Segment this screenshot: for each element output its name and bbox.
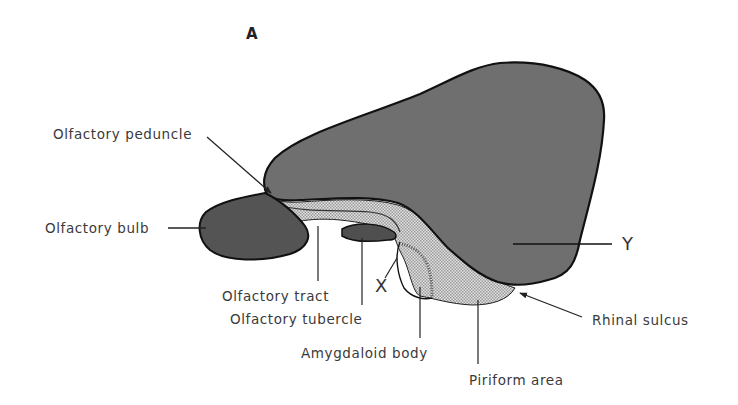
rhinal-sulcus-arrow bbox=[520, 293, 582, 317]
label-piriform-area: Piriform area bbox=[469, 374, 564, 388]
label-olfactory-peduncle: Olfactory peduncle bbox=[53, 128, 192, 142]
peduncle-arrow bbox=[207, 137, 271, 193]
label-amygdaloid-body: Amygdaloid body bbox=[301, 347, 428, 361]
panel-label: A bbox=[246, 25, 258, 43]
marker-y: Y bbox=[622, 235, 633, 253]
marker-x: X bbox=[375, 277, 387, 295]
label-olfactory-tract: Olfactory tract bbox=[222, 290, 329, 304]
label-olfactory-tubercle: Olfactory tubercle bbox=[230, 313, 362, 327]
label-rhinal-sulcus: Rhinal sulcus bbox=[592, 314, 689, 328]
label-olfactory-bulb: Olfactory bulb bbox=[45, 222, 149, 236]
